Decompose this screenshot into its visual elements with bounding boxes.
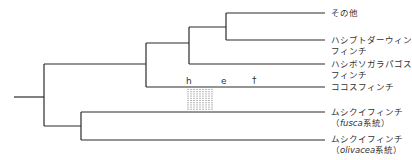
marker-h: h — [186, 76, 192, 86]
taxon-label-2: フィンチ — [331, 70, 412, 81]
marker-dagger: † — [252, 75, 257, 85]
taxon-label: ハシブトダーウィン — [331, 35, 412, 46]
taxon-warbler-fusca: ムシクイフィンチ （fusca系統） — [331, 107, 403, 129]
marker-e: e — [221, 76, 227, 86]
taxon-label: ムシクイフィンチ — [331, 134, 403, 145]
hybridization-dotted-region — [188, 89, 212, 111]
taxon-others: その他 — [331, 8, 358, 19]
taxon-label: ココスフィンチ — [331, 82, 394, 92]
taxon-label-2: フィンチ — [331, 46, 412, 57]
taxon-warbler-olivacea: ムシクイフィンチ （olivacea系統） — [331, 134, 403, 156]
taxon-sharp-beaked: ハシブトダーウィン フィンチ — [331, 35, 412, 57]
taxon-label-2: （olivacea系統） — [331, 145, 403, 156]
taxon-slender-billed: ハシボソガラパゴス フィンチ — [331, 59, 412, 81]
taxon-label: その他 — [331, 8, 358, 18]
taxon-label: ハシボソガラパゴス — [331, 59, 412, 70]
taxon-label-2: （fusca系統） — [331, 118, 403, 129]
taxon-label: ムシクイフィンチ — [331, 107, 403, 118]
taxon-cocos: ココスフィンチ — [331, 82, 394, 93]
